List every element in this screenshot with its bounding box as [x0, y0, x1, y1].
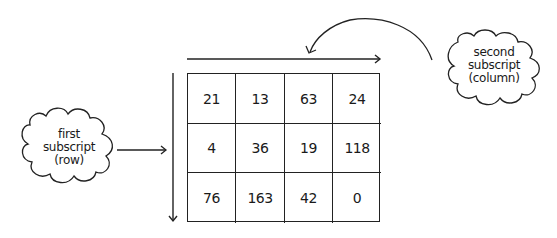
matrix-cell: 118: [333, 124, 381, 173]
curved-pointer-arrow: [306, 19, 432, 60]
matrix-cell: 19: [285, 124, 333, 173]
matrix-cell: 24: [333, 74, 381, 124]
matrix-grid: 21 13 63 24 4 36 19 118 76 163 42 0: [187, 73, 380, 222]
first-subscript-label: first subscript (row): [38, 128, 100, 167]
matrix-cell: 13: [236, 74, 285, 124]
matrix-cell: 4: [188, 124, 236, 173]
label-line: (row): [38, 154, 100, 167]
row-pointer-arrow: [117, 146, 166, 154]
matrix-cell: 163: [236, 173, 285, 223]
matrix-cell: 36: [236, 124, 285, 173]
row-direction-arrow: [169, 73, 177, 221]
label-line: (column): [460, 72, 528, 85]
matrix-cell: 21: [188, 74, 236, 124]
matrix-cell: 76: [188, 173, 236, 223]
second-subscript-label: second subscript (column): [460, 46, 528, 85]
matrix-cell: 63: [285, 74, 333, 124]
matrix-cell: 42: [285, 173, 333, 223]
column-direction-arrow: [187, 55, 380, 63]
matrix-cell: 0: [333, 173, 381, 223]
